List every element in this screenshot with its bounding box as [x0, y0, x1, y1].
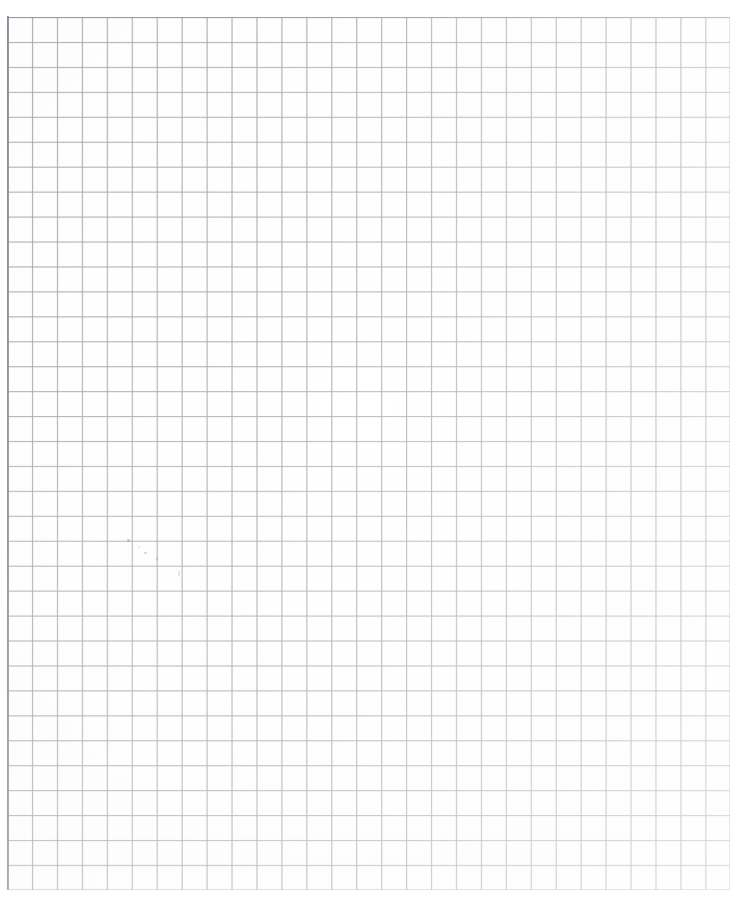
page-margin-top: [0, 0, 741, 16]
page-margin-left: [0, 0, 6, 904]
page-margin-bottom: [0, 891, 741, 904]
scan-artifact-top-icon: [386, 1, 397, 6]
grid-frame-left-rule: [7, 16, 9, 890]
grid-ghost-lines: [7, 17, 730, 890]
grid-frame-top-rule: [7, 17, 730, 18]
grid-frame-bottom-rule: [7, 889, 730, 890]
grid-area: [7, 17, 730, 890]
scanned-grid-paper-page: [0, 0, 741, 904]
grid-frame-right-rule: [729, 17, 730, 890]
page-margin-right: [731, 0, 741, 904]
